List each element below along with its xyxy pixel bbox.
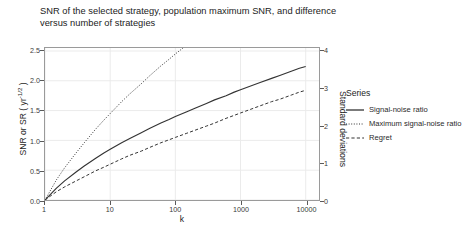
gridlines — [45, 48, 319, 200]
legend-item-0[interactable]: Signal-noise ratio — [346, 103, 464, 116]
x-axis-ticklabel: 100 — [169, 205, 181, 214]
legend-label: Regret — [369, 133, 392, 142]
y-axis-right-ticklabel: 1 — [324, 159, 328, 168]
y-axis-right-tickmark — [320, 50, 324, 51]
x-axis-tickmark — [241, 201, 242, 205]
y-axis-right-ticklabel: 4 — [324, 46, 328, 55]
x-axis-ticklabel: 10000 — [297, 205, 317, 214]
legend-key-dotted-icon — [346, 119, 364, 129]
legend-key-solid-icon — [346, 105, 364, 115]
y-axis-right-ticklabel: 2 — [324, 121, 328, 130]
y-axis-left-title-main: SNR or SR ( yr — [18, 98, 28, 155]
x-axis-ticklabel: 1 — [42, 205, 46, 214]
y-axis-left-title: SNR or SR ( yr-1/2 ) — [16, 39, 28, 199]
y-axis-left-tickmark — [40, 141, 44, 142]
plot-area — [45, 48, 319, 200]
x-axis-ticklabel: 1000 — [233, 205, 249, 214]
y-axis-left-tickmark — [40, 80, 44, 81]
x-axis-title: k — [44, 214, 320, 224]
y-axis-left-ticklabel: 0.5 — [30, 166, 40, 175]
legend-item-1[interactable]: Maximum signal-noise ratio — [346, 117, 464, 130]
x-axis-tickmark — [110, 201, 111, 205]
x-axis-tickmark — [175, 201, 176, 205]
legend-items: Signal-noise ratioMaximum signal-noise r… — [346, 103, 464, 144]
y-axis-right-ticklabel: 3 — [324, 83, 328, 92]
y-axis-left-ticklabel: 1.0 — [30, 136, 40, 145]
y-axis-left-ticklabel: 1.5 — [30, 106, 40, 115]
y-axis-left-ticklabel: 2.0 — [30, 76, 40, 85]
legend-key-dashed-icon — [346, 133, 364, 143]
x-axis-ticklabel: 10 — [106, 205, 114, 214]
y-axis-left-tickmark — [40, 110, 44, 111]
chart-figure: SNR of the selected strategy, population… — [0, 0, 464, 228]
x-axis-tickmark — [44, 201, 45, 205]
plot-panel — [44, 47, 320, 201]
y-axis-right-tickmark — [320, 88, 324, 89]
y-axis-left-ticklabel: 2.5 — [30, 46, 40, 55]
y-axis-left-title-end: ) — [18, 82, 28, 87]
x-axis-tickmark — [307, 201, 308, 205]
legend-label: Maximum signal-noise ratio — [369, 119, 461, 128]
legend-item-2[interactable]: Regret — [346, 131, 464, 144]
chart-title: SNR of the selected strategy, population… — [40, 6, 370, 29]
y-axis-left-title-exponent: -1/2 — [16, 88, 23, 99]
y-axis-left-tickmark — [40, 50, 44, 51]
y-axis-right-tickmark — [320, 126, 324, 127]
y-axis-left-tickmark — [40, 171, 44, 172]
y-axis-right-tickmark — [320, 163, 324, 164]
legend-label: Signal-noise ratio — [369, 105, 428, 114]
legend: Series Signal-noise ratioMaximum signal-… — [346, 88, 464, 145]
legend-title: Series — [346, 88, 464, 98]
y-axis-right-tickmark — [320, 201, 324, 202]
